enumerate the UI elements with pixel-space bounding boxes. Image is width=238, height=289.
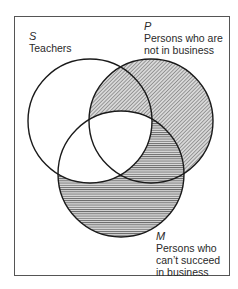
- label-m-line2: can’t succeed: [156, 254, 220, 266]
- label-s-letter: S: [29, 30, 72, 42]
- label-s-text: Teachers: [29, 42, 72, 54]
- label-p-line2: not in business: [144, 44, 223, 56]
- label-p: P Persons who are not in business: [144, 20, 223, 56]
- label-s: S Teachers: [29, 30, 72, 54]
- label-m: M Persons who can’t succeed in business: [156, 230, 220, 278]
- label-m-letter: M: [156, 230, 220, 242]
- label-m-line1: Persons who: [156, 242, 220, 254]
- label-p-line1: Persons who are: [144, 32, 223, 44]
- label-m-line3: in business: [156, 266, 220, 278]
- label-p-letter: P: [144, 20, 223, 32]
